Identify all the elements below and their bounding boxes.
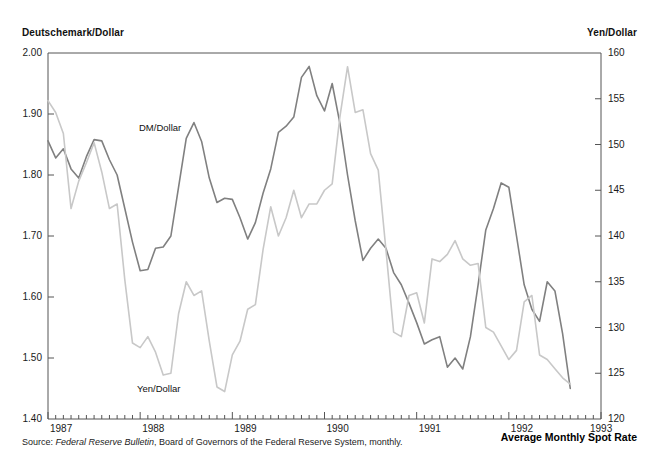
right-axis-tick-label: 125 <box>608 367 625 378</box>
right-axis-tick-label: 135 <box>608 276 625 287</box>
left-axis-tick-label: 1.90 <box>14 108 42 119</box>
left-axis-tick-label: 1.80 <box>14 169 42 180</box>
left-axis-tick-label: 1.40 <box>14 413 42 424</box>
source-prefix: Source: <box>22 437 53 447</box>
left-axis-tick-label: 1.70 <box>14 230 42 241</box>
chart-subtitle: Average Monthly Spot Rate <box>501 431 637 443</box>
source-note: Source: Federal Reserve Bulletin, Board … <box>22 437 403 447</box>
series-line-dm <box>48 66 570 388</box>
right-axis-tick-label: 140 <box>608 230 625 241</box>
source-rest: , Board of Governors of the Federal Rese… <box>154 437 402 447</box>
right-axis-tick-label: 130 <box>608 322 625 333</box>
x-axis-tick-label: 1990 <box>327 423 349 434</box>
x-axis-tick-label: 1991 <box>419 423 441 434</box>
yen-series-label: Yen/Dollar <box>137 383 180 394</box>
right-axis-tick-label: 150 <box>608 139 625 150</box>
plot-canvas <box>0 0 653 476</box>
left-axis-tick-label: 1.60 <box>14 291 42 302</box>
left-axis-tick-label: 2.00 <box>14 47 42 58</box>
right-axis-tick-label: 145 <box>608 184 625 195</box>
x-axis-tick-label: 1988 <box>142 423 164 434</box>
source-publication: Federal Reserve Bulletin <box>56 437 155 447</box>
right-axis-tick-label: 160 <box>608 47 625 58</box>
chart-figure: Deutschemark/Dollar Yen/Dollar 1.401.501… <box>0 0 653 476</box>
right-axis-tick-label: 155 <box>608 93 625 104</box>
left-axis-tick-label: 1.50 <box>14 352 42 363</box>
x-axis-tick-label: 1987 <box>50 423 72 434</box>
x-axis-tick-label: 1989 <box>234 423 256 434</box>
dm-series-label: DM/Dollar <box>139 122 181 133</box>
series-line-yen <box>48 67 570 392</box>
